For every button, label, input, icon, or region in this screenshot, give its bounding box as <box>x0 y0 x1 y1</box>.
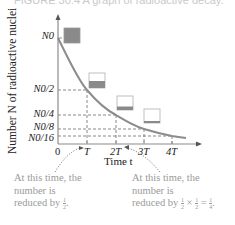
y-tick-quarter: N0/4 <box>20 108 54 119</box>
y-tick-half: N0/2 <box>20 83 54 94</box>
x-tick-4T: 4T <box>166 146 177 157</box>
y-tick-n0: N0 <box>20 30 54 41</box>
y-tick-sixteenth: N0/16 <box>20 132 54 143</box>
annotation-right: At this time, the number is reduced by 1… <box>132 172 235 210</box>
x-axis-label: Time t <box>104 155 133 167</box>
x-tick-3T: 3T <box>138 146 149 157</box>
x-tick-T: T <box>84 146 90 157</box>
sample-box-quarter <box>117 96 133 110</box>
x-tick-0: 0 <box>55 146 60 157</box>
y-axis-arrow-icon <box>56 14 61 20</box>
annotation-left: At this time, the number is reduced by 1… <box>14 172 114 210</box>
x-axis-arrow-icon <box>196 142 202 147</box>
y-tick-eighth: N0/8 <box>20 121 54 132</box>
y-axis-label: Number N of radioactive nuclei <box>6 14 18 154</box>
pointer-right-arrow-icon <box>124 145 129 150</box>
sample-box-half <box>89 73 105 88</box>
sample-box-full <box>64 28 80 43</box>
decay-curve <box>58 38 186 138</box>
sample-box-eighth <box>144 109 160 123</box>
